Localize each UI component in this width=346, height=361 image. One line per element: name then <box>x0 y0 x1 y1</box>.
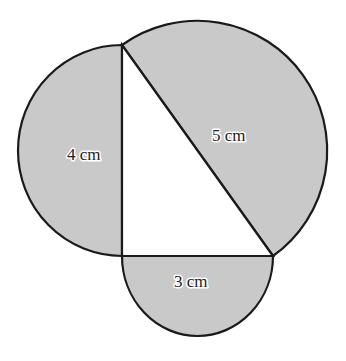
triangle-semicircles-figure: 4 cm 5 cm 3 cm <box>0 0 346 361</box>
label-vertical-side: 4 cm <box>67 145 101 164</box>
semicircle-bottom <box>122 256 273 336</box>
label-hypotenuse: 5 cm <box>212 126 246 145</box>
diagram-canvas: 4 cm 5 cm 3 cm <box>0 0 346 361</box>
label-horizontal-side: 3 cm <box>174 272 208 291</box>
